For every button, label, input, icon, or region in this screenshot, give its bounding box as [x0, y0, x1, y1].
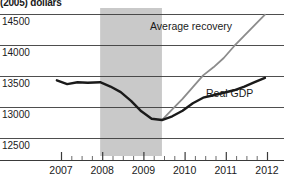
x-axis-tick-label: 2010 — [173, 164, 197, 176]
y-axis-tick-label: 14000 — [2, 47, 30, 58]
x-axis-tick-label: 2007 — [49, 164, 73, 176]
chart-plot-area: 1450014000135001300012500200720082009201… — [0, 0, 286, 184]
y-axis-tick-label: 13000 — [2, 109, 30, 120]
series-annotation-label: Average recovery — [150, 20, 233, 32]
x-axis-tick-label: 2011 — [215, 164, 238, 176]
series-annotation-label: Real GDP — [206, 87, 253, 99]
y-axis-tick-label: 13500 — [2, 78, 30, 89]
y-axis-tick-label: 12500 — [2, 140, 30, 151]
gdp-recovery-chart: (2005) dollars 1450014000135001300012500… — [0, 0, 286, 184]
x-axis-tick-label: 2009 — [132, 164, 156, 176]
x-axis-tick-label: 2012 — [255, 164, 279, 176]
y-axis-tick-label: 14500 — [2, 16, 30, 27]
x-axis-tick-label: 2008 — [91, 164, 115, 176]
